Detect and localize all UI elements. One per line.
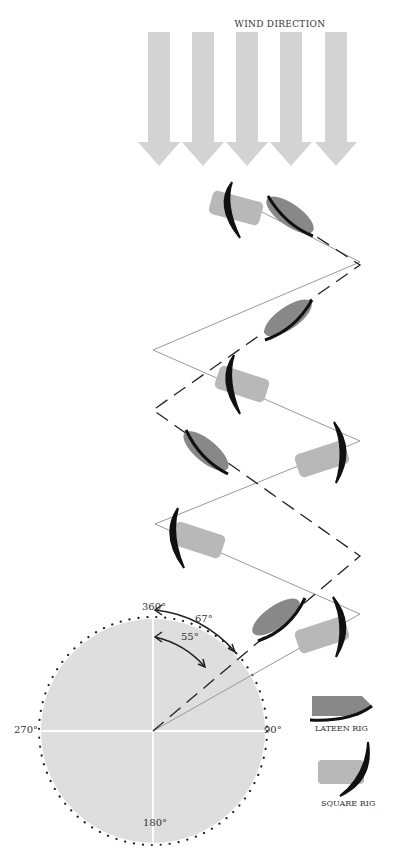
wind-arrow-icon	[315, 32, 357, 166]
compass-label-east: 90°	[264, 724, 282, 735]
compass-label-north: 360°	[142, 601, 166, 612]
lateen-rig-icon	[310, 696, 372, 720]
square-boat-icon	[214, 355, 271, 414]
wind-arrows	[138, 32, 357, 166]
wind-arrow-icon	[138, 32, 180, 166]
compass-label-west: 270°	[14, 724, 38, 735]
square-boat-icon	[294, 422, 351, 483]
wind-arrow-icon	[182, 32, 224, 166]
lateen-boat-icon	[177, 425, 234, 478]
wind-arrow-icon	[226, 32, 268, 166]
angle-label-55: 55°	[181, 631, 199, 642]
square-rig-icon	[318, 742, 369, 796]
legend-square-label: SQUARE RIG	[321, 799, 375, 808]
compass-label-south: 180°	[143, 817, 167, 828]
angle-label-67: 67°	[195, 613, 213, 624]
legend-lateen-label: LATEEN RIG	[315, 724, 368, 733]
lateen-boat-icon	[261, 190, 319, 240]
tacking-diagram	[0, 0, 400, 848]
wind-arrow-icon	[270, 32, 312, 166]
square-boat-icon	[170, 508, 227, 568]
square-boat-icon	[208, 182, 264, 238]
lateen-boat-icon	[259, 293, 317, 343]
